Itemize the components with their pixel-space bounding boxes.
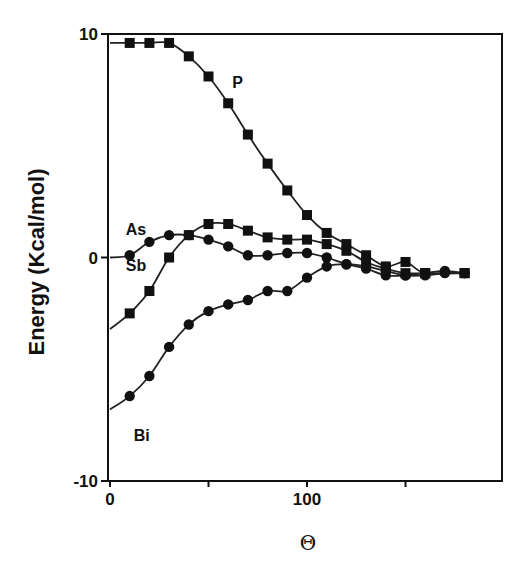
- square-marker: [164, 38, 174, 48]
- series-label-sb: Sb: [126, 257, 147, 274]
- x-tick-label: 100: [293, 490, 321, 509]
- square-marker: [243, 226, 253, 236]
- circle-marker: [262, 250, 272, 260]
- circle-marker: [223, 299, 233, 309]
- circle-marker: [203, 306, 213, 316]
- square-marker: [282, 185, 292, 195]
- circle-marker: [459, 268, 469, 278]
- square-marker: [223, 219, 233, 229]
- circle-marker: [341, 259, 351, 269]
- square-marker: [322, 239, 332, 249]
- square-marker: [243, 130, 253, 140]
- circle-marker: [243, 250, 253, 260]
- circle-marker: [381, 266, 391, 276]
- square-marker: [341, 246, 351, 256]
- square-marker: [184, 51, 194, 61]
- square-marker: [263, 159, 273, 169]
- square-marker: [204, 71, 214, 81]
- y-tick-label: 0: [89, 249, 98, 268]
- circle-marker: [322, 261, 332, 271]
- square-marker: [302, 235, 312, 245]
- circle-marker: [223, 241, 233, 251]
- circle-marker: [361, 261, 371, 271]
- circle-marker: [164, 342, 174, 352]
- circle-marker: [302, 248, 312, 258]
- square-marker: [282, 235, 292, 245]
- series-label-p: P: [232, 74, 243, 91]
- square-marker: [164, 253, 174, 263]
- x-axis-label: Θ: [300, 531, 316, 555]
- circle-marker: [282, 286, 292, 296]
- series-label-bi: Bi: [134, 427, 150, 444]
- square-marker: [184, 230, 194, 240]
- circle-marker: [184, 319, 194, 329]
- y-axis-label: Energy (Kcal/mol): [24, 168, 49, 355]
- series-bi: [110, 259, 470, 409]
- circle-marker: [125, 391, 135, 401]
- square-marker: [263, 232, 273, 242]
- square-marker: [144, 286, 154, 296]
- square-marker: [401, 257, 411, 267]
- circle-marker: [282, 248, 292, 258]
- circle-marker: [243, 295, 253, 305]
- circle-marker: [203, 234, 213, 244]
- square-marker: [125, 38, 135, 48]
- circle-marker: [144, 237, 154, 247]
- series-label-as: As: [126, 221, 147, 238]
- circle-marker: [322, 252, 332, 262]
- square-marker: [223, 98, 233, 108]
- series-group: [110, 38, 470, 410]
- circle-marker: [262, 286, 272, 296]
- square-marker: [302, 210, 312, 220]
- circle-marker: [302, 272, 312, 282]
- x-tick-label: 0: [105, 490, 114, 509]
- energy-line-chart: 100-100100 PAsSbBi Energy (Kcal/mol) Θ: [0, 0, 527, 564]
- circle-marker: [400, 270, 410, 280]
- square-marker: [125, 308, 135, 318]
- y-tick-label: 10: [79, 25, 98, 44]
- square-marker: [204, 219, 214, 229]
- circle-marker: [440, 268, 450, 278]
- circle-marker: [420, 270, 430, 280]
- annotations: PAsSbBi: [126, 74, 243, 444]
- circle-marker: [164, 230, 174, 240]
- circle-marker: [144, 371, 154, 381]
- square-marker: [144, 38, 154, 48]
- y-tick-label: -10: [73, 472, 98, 491]
- square-marker: [322, 228, 332, 238]
